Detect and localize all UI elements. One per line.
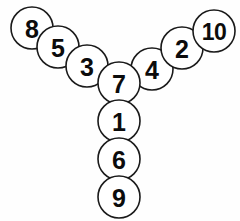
node-label-2: 2: [175, 35, 189, 63]
node-label-10: 10: [202, 19, 227, 45]
node-label-1: 1: [112, 108, 126, 136]
node-6[interactable]: 6: [98, 138, 140, 180]
node-label-8: 8: [25, 15, 39, 43]
node-7[interactable]: 7: [98, 62, 140, 104]
node-label-6: 6: [112, 146, 126, 174]
node-9[interactable]: 9: [98, 176, 140, 218]
node-10[interactable]: 10: [193, 10, 235, 52]
node-label-7: 7: [112, 70, 126, 98]
node-1[interactable]: 1: [98, 100, 140, 142]
node-label-9: 9: [112, 184, 126, 212]
circle-chain-diagram: 85432107169: [0, 0, 240, 221]
node-label-4: 4: [145, 56, 159, 84]
diagram-canvas: 85432107169: [0, 0, 240, 221]
node-label-5: 5: [51, 34, 65, 62]
node-label-3: 3: [80, 53, 94, 81]
